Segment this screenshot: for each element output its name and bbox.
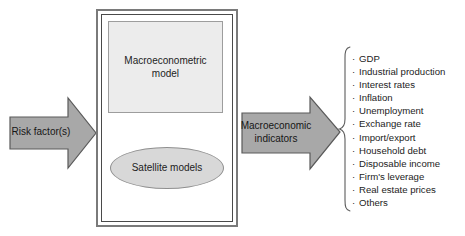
list-item-label: Industrial production bbox=[359, 66, 445, 77]
bullet-glyph: · bbox=[352, 144, 359, 157]
bullet-glyph: · bbox=[352, 104, 359, 117]
risk-factor-arrow bbox=[8, 96, 98, 170]
macroeconometric-model-label: Macroeconometric model bbox=[124, 54, 206, 80]
bullet-glyph: · bbox=[352, 183, 359, 196]
bullet-glyph: · bbox=[352, 52, 359, 65]
list-item-label: GDP bbox=[359, 53, 380, 64]
list-item: ·GDP bbox=[352, 52, 464, 65]
list-item: ·Industrial production bbox=[352, 65, 464, 78]
indicator-list: ·GDP ·Industrial production ·Interest ra… bbox=[352, 52, 464, 209]
list-item: ·Unemployment bbox=[352, 104, 464, 117]
bullet-glyph: · bbox=[352, 65, 359, 78]
bullet-glyph: · bbox=[352, 91, 359, 104]
list-item: ·Real estate prices bbox=[352, 183, 464, 196]
list-item-label: Real estate prices bbox=[359, 184, 436, 195]
brace-path bbox=[340, 47, 351, 211]
list-item-label: Exchange rate bbox=[359, 118, 421, 129]
list-item: ·Inflation bbox=[352, 91, 464, 104]
satellite-models-label: Satellite models bbox=[132, 162, 203, 174]
bullet-glyph: · bbox=[352, 157, 359, 170]
arrow-shape bbox=[242, 97, 340, 169]
macroeconomic-indicators-arrow bbox=[240, 95, 342, 172]
list-item: ·Others bbox=[352, 196, 464, 209]
list-item-label: Interest rates bbox=[359, 79, 415, 90]
list-item-label: Inflation bbox=[359, 92, 393, 103]
list-item-label: Others bbox=[359, 197, 388, 208]
bullet-glyph: · bbox=[352, 117, 359, 130]
bullet-glyph: · bbox=[352, 131, 359, 144]
list-item-label: Firm's leverage bbox=[359, 171, 424, 182]
list-item: ·Household debt bbox=[352, 144, 464, 157]
diagram-canvas: Risk factor(s) Macroeconometric model Sa… bbox=[0, 0, 465, 236]
curly-brace bbox=[338, 45, 352, 213]
bullet-glyph: · bbox=[352, 170, 359, 183]
list-item: ·Firm's leverage bbox=[352, 170, 464, 183]
list-item: ·Disposable income bbox=[352, 157, 464, 170]
list-item: ·Import/export bbox=[352, 131, 464, 144]
list-item: ·Exchange rate bbox=[352, 117, 464, 130]
satellite-models-ellipse: Satellite models bbox=[110, 147, 224, 189]
list-item-label: Disposable income bbox=[359, 158, 440, 169]
bullet-glyph: · bbox=[352, 196, 359, 209]
macroeconometric-model-box: Macroeconometric model bbox=[108, 21, 223, 113]
list-item: ·Interest rates bbox=[352, 78, 464, 91]
list-item-label: Household debt bbox=[359, 145, 426, 156]
list-item-label: Unemployment bbox=[359, 105, 424, 116]
bullet-glyph: · bbox=[352, 78, 359, 91]
list-item-label: Import/export bbox=[359, 132, 416, 143]
arrow-shape bbox=[10, 98, 96, 168]
